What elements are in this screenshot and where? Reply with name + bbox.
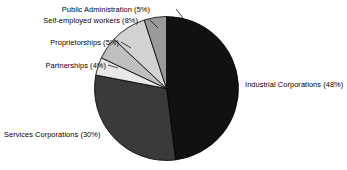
pie-label-partnerships: Partnerships (4%) [46, 61, 106, 70]
pie-label-industrial-corporations: Industrial Corporations (48%) [245, 80, 343, 89]
pie-label-public-administration: Public Administration (5%) [62, 5, 150, 14]
pie-chart: Public Administration (5%) Self-employed… [0, 0, 347, 170]
pie-label-services-corporations: Services Corporations (30%) [4, 130, 100, 139]
pie-label-self-employed-workers: Self-employed workers (8%) [43, 16, 138, 25]
pie-slice-industrial-corporations [167, 17, 239, 160]
pie-label-proprietorships: Proprietorships (5%) [50, 38, 119, 47]
